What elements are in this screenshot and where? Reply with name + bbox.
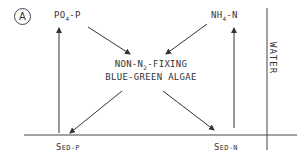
nh4-main: NH [211, 10, 222, 20]
nh4-sub: 4 [222, 15, 226, 22]
sedn-rest: ED-N [220, 144, 238, 152]
algae-line1-sub: 2 [143, 64, 147, 71]
po4-rest: -P [69, 10, 80, 20]
po4-sub: 4 [65, 15, 69, 22]
water-label: WATER [268, 42, 278, 74]
node-algae: NON-N2-FIXING BLUE-GREEN ALGAE [96, 58, 206, 84]
algae-line1-post: -FIXING [147, 59, 187, 69]
algae-line1-pre: NON-N [115, 59, 144, 69]
node-nh4-n: NH4-N [211, 10, 238, 20]
node-sed-p: SED-P [56, 142, 80, 152]
algae-line-2: BLUE-GREEN ALGAE [96, 71, 206, 84]
node-po4-p: PO4-P [54, 10, 81, 20]
arrow-nh4-to-algae [166, 24, 207, 54]
po4-main: PO [54, 10, 65, 20]
panel-label: A [14, 8, 31, 25]
node-sed-n: SED-N [214, 142, 238, 152]
nh4-rest: -N [226, 10, 237, 20]
sedp-rest: ED-P [62, 144, 80, 152]
arrow-algae-to-sedp [70, 91, 122, 133]
arrow-po4-to-algae [88, 27, 130, 54]
algae-line-1: NON-N2-FIXING [96, 58, 206, 71]
arrow-algae-to-sedn [163, 91, 214, 130]
